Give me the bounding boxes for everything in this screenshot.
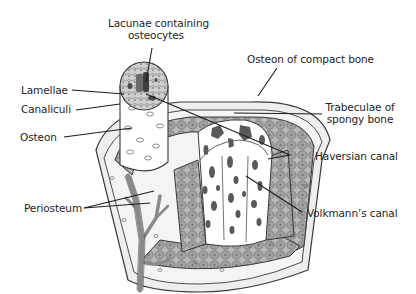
label-lacunae-line2: osteocytes [108, 29, 204, 41]
label-osteon-compact: Osteon of compact bone [247, 53, 374, 65]
bone-diagram: Lacunae containing osteocytes Lamellae C… [0, 0, 416, 294]
label-trabeculae-line2: spongy bone [322, 113, 398, 125]
label-volkmann: Volkmann’s canal [307, 207, 398, 219]
label-lamellae: Lamellae [21, 84, 68, 96]
bone-illustration [0, 0, 416, 294]
label-osteon: Osteon [20, 131, 57, 143]
leader-osteon-compact [258, 68, 277, 96]
spongy-bone [198, 120, 272, 247]
label-lacunae-line1: Lacunae containing [108, 17, 204, 29]
osteon-cylinder [120, 62, 168, 171]
leader-lamellae [72, 90, 124, 94]
label-trabeculae: Trabeculae of spongy bone [322, 101, 398, 125]
leader-canaliculi [76, 104, 120, 110]
label-canaliculi: Canaliculi [21, 103, 71, 115]
label-haversian: Haversian canal [315, 150, 398, 162]
label-trabeculae-line1: Trabeculae of [322, 101, 398, 113]
label-periosteum: Periosteum [24, 202, 82, 214]
label-lacunae: Lacunae containing osteocytes [108, 17, 204, 41]
